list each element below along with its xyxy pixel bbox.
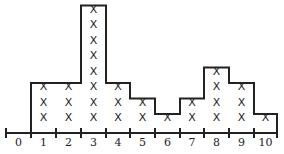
x-marker: X <box>139 111 147 124</box>
x-tick-label: 9 <box>238 136 245 149</box>
x-tick-label: 2 <box>65 136 72 149</box>
x-tick-label: 1 <box>40 136 47 149</box>
x-marker: X <box>114 96 122 109</box>
x-marker: X <box>40 96 48 109</box>
x-marker: X <box>188 111 196 124</box>
x-marker: X <box>65 96 73 109</box>
x-marker: X <box>90 3 98 16</box>
x-marker: X <box>114 80 122 93</box>
x-marker: X <box>40 111 48 124</box>
plot-area: XXXXXXXXXXXXXXXXXXXXXXXXXXXXXX <box>0 0 284 154</box>
x-marker: X <box>90 34 98 47</box>
x-marker: X <box>188 96 196 109</box>
x-marker: X <box>238 111 246 124</box>
x-marker: X <box>65 111 73 124</box>
x-marker: X <box>262 111 270 124</box>
x-marker: X <box>40 80 48 93</box>
x-marker: X <box>139 96 147 109</box>
x-tick-label: 7 <box>189 136 196 149</box>
x-marker: X <box>90 65 98 78</box>
x-marker: X <box>238 96 246 109</box>
x-marker: X <box>90 111 98 124</box>
x-marker: X <box>90 18 98 31</box>
x-tick-label: 10 <box>259 136 273 149</box>
x-marker: X <box>213 111 221 124</box>
x-marker: X <box>90 80 98 93</box>
x-marker: X <box>213 96 221 109</box>
x-marker: X <box>213 65 221 78</box>
x-tick-label: 0 <box>15 136 22 149</box>
x-marker: X <box>238 80 246 93</box>
x-marker: X <box>164 111 172 124</box>
x-marker: X <box>213 80 221 93</box>
x-marker: X <box>90 49 98 62</box>
x-tick-label: 3 <box>90 136 97 149</box>
x-marker: X <box>114 111 122 124</box>
x-tick-label: 8 <box>213 136 220 149</box>
x-marker: X <box>65 80 73 93</box>
x-tick-label: 4 <box>115 136 122 149</box>
x-tick-label: 6 <box>164 136 171 149</box>
x-marker: X <box>90 96 98 109</box>
x-tick-label: 5 <box>139 136 146 149</box>
